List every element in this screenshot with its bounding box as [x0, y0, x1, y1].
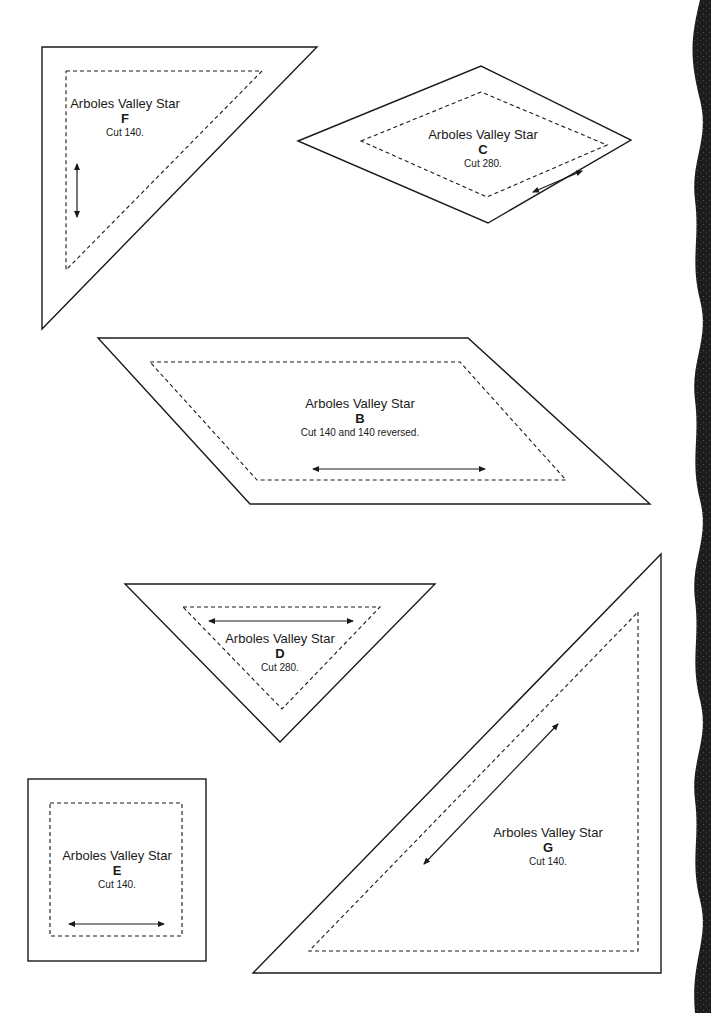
cut-instruction: Cut 280. — [428, 158, 538, 170]
piece-title: Arboles Valley Star — [428, 128, 538, 143]
label-piece-d: Arboles Valley Star D Cut 280. — [225, 632, 335, 673]
piece-letter: G — [493, 841, 603, 856]
cut-instruction: Cut 140. — [62, 879, 172, 891]
label-piece-b: Arboles Valley Star B Cut 140 and 140 re… — [301, 397, 419, 438]
piece-letter: B — [301, 412, 419, 427]
piece-title: Arboles Valley Star — [62, 849, 172, 864]
piece-letter: F — [70, 112, 180, 127]
cut-instruction: Cut 140. — [493, 856, 603, 868]
cut-instruction: Cut 140. — [70, 127, 180, 139]
wavy-border — [693, 0, 711, 1013]
piece-letter: D — [225, 647, 335, 662]
piece-letter: E — [62, 864, 172, 879]
cut-instruction: Cut 280. — [225, 662, 335, 674]
piece-f — [42, 47, 317, 329]
label-piece-g: Arboles Valley Star G Cut 140. — [493, 826, 603, 867]
piece-title: Arboles Valley Star — [301, 397, 419, 412]
piece-letter: C — [428, 143, 538, 158]
piece-title: Arboles Valley Star — [493, 826, 603, 841]
cut-instruction: Cut 140 and 140 reversed. — [301, 427, 419, 439]
piece-title: Arboles Valley Star — [70, 97, 180, 112]
label-piece-e: Arboles Valley Star E Cut 140. — [62, 849, 172, 890]
piece-title: Arboles Valley Star — [225, 632, 335, 647]
label-piece-f: Arboles Valley Star F Cut 140. — [70, 97, 180, 138]
label-piece-c: Arboles Valley Star C Cut 280. — [428, 128, 538, 169]
